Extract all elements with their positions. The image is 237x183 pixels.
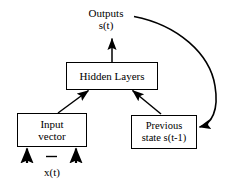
outputs-label: Outputs s(t) [78,7,134,31]
outputs-label-line-1: Outputs [78,7,134,19]
input-signal-label: x(t) [32,166,72,178]
outputs-label-line-2: s(t) [78,19,134,31]
previous-state-label-line-2: state s(t-1) [142,132,187,144]
input-signal-label-text: x(t) [32,166,72,178]
arrow-previous-to-hidden [133,91,162,115]
hidden-layers-box[interactable]: Hidden Layers [66,62,158,90]
previous-state-box[interactable]: Previous state s(t-1) [131,115,197,149]
input-vector-label-line-2: vector [38,130,65,142]
diagram-canvas: Outputs s(t) Hidden Layers Input vector … [0,0,237,183]
hidden-layers-label: Hidden Layers [79,70,144,82]
input-vector-label-line-1: Input [40,118,63,130]
previous-state-label-line-1: Previous [146,120,183,132]
input-vector-box[interactable]: Input vector [17,113,87,147]
arrow-input-to-hidden [58,91,89,114]
